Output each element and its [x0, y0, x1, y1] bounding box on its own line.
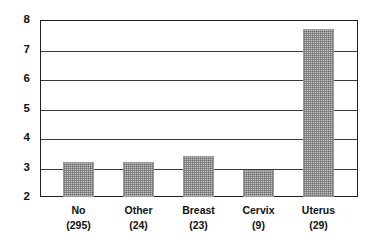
y-tick-7: 7	[23, 44, 30, 56]
x-label-no-count: (295)	[48, 218, 109, 233]
y-tick-2: 2	[23, 191, 30, 203]
x-label-other-text: Other	[108, 203, 169, 218]
bar-other	[123, 162, 154, 197]
bar-uterus	[303, 29, 334, 197]
x-label-other: Other (24)	[108, 203, 169, 233]
bar-cervix	[243, 170, 274, 197]
bars-layer	[40, 20, 358, 197]
x-label-cervix-count: (9)	[228, 218, 289, 233]
bar-breast	[183, 156, 214, 197]
y-tick-8: 8	[23, 14, 30, 26]
y-tick-6: 6	[23, 73, 30, 85]
x-label-other-count: (24)	[108, 218, 169, 233]
x-label-breast: Breast (23)	[168, 203, 229, 233]
x-label-cervix-text: Cervix	[228, 203, 289, 218]
x-label-no: No (295)	[48, 203, 109, 233]
y-tick-4: 4	[23, 132, 30, 144]
bar-chart: 8 7 6 5 4 3 2 No (295) Other (24) Breast	[0, 0, 372, 247]
x-axis-labels: No (295) Other (24) Breast (23) Cervix (…	[40, 203, 358, 247]
x-label-uterus-count: (29)	[288, 218, 349, 233]
y-tick-3: 3	[23, 162, 30, 174]
x-label-uterus-text: Uterus	[288, 203, 349, 218]
y-axis-labels: 8 7 6 5 4 3 2	[0, 0, 36, 247]
x-label-breast-count: (23)	[168, 218, 229, 233]
x-label-cervix: Cervix (9)	[228, 203, 289, 233]
x-label-no-text: No	[48, 203, 109, 218]
bar-no	[63, 162, 94, 197]
x-label-uterus: Uterus (29)	[288, 203, 349, 233]
y-tick-5: 5	[23, 103, 30, 115]
x-label-breast-text: Breast	[168, 203, 229, 218]
